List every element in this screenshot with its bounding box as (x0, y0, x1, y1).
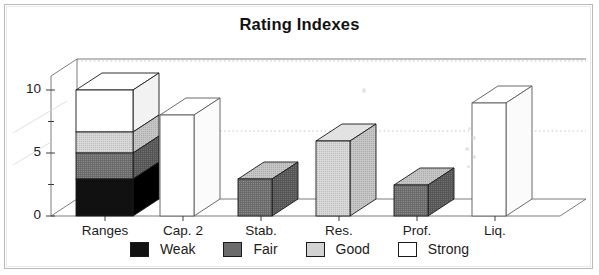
bar-segment-strong-front (76, 90, 133, 132)
legend-item-good[interactable]: Good (306, 241, 370, 257)
scan-speckle (362, 88, 366, 93)
x-axis-label-ranges: Ranges (60, 223, 150, 238)
bar-front (238, 179, 272, 216)
scan-speckle (465, 147, 469, 151)
bar-front (472, 103, 506, 216)
bar-side (506, 86, 532, 216)
bar-front (394, 185, 428, 216)
bar-segment-good-front (76, 132, 133, 153)
chart-canvas: Rating Indexes (5, 5, 594, 270)
bar-ranges[interactable] (76, 73, 159, 216)
bar-stab[interactable] (238, 162, 298, 216)
bar-liq[interactable] (472, 86, 532, 216)
x-axis-label-liq: Liq. (450, 223, 540, 238)
bar-front (160, 115, 194, 216)
legend-label-fair: Fair (253, 241, 277, 257)
chart-legend: Weak Fair Good Strong (5, 241, 594, 257)
legend-label-good: Good (336, 241, 370, 257)
legend-label-strong: Strong (428, 241, 469, 257)
legend-label-weak: Weak (160, 241, 196, 257)
x-axis-ticks (105, 216, 495, 221)
x-axis-label-res: Res. (294, 223, 384, 238)
chart-frame: Rating Indexes (4, 4, 593, 269)
legend-swatch-strong (398, 242, 417, 257)
bar-side (194, 98, 220, 216)
legend-swatch-weak (130, 242, 149, 257)
bar-prof[interactable] (394, 168, 454, 216)
x-axis-label-prof: Prof. (372, 223, 462, 238)
scan-speckle (468, 127, 471, 130)
scan-speckle (471, 136, 476, 140)
y-axis-label-10: 10 (7, 81, 41, 96)
scan-speckle (467, 165, 470, 168)
legend-item-weak[interactable]: Weak (130, 241, 196, 257)
legend-swatch-fair (223, 242, 242, 257)
y-axis-label-5: 5 (7, 144, 41, 159)
legend-swatch-good (306, 242, 325, 257)
legend-item-fair[interactable]: Fair (223, 241, 277, 257)
bar-res[interactable] (316, 124, 376, 216)
x-axis-label-stab: Stab. (216, 223, 306, 238)
scan-speckle (473, 155, 476, 159)
x-axis-label-cap-2: Cap. 2 (138, 223, 228, 238)
bar-segment-fair-front (76, 153, 133, 179)
y-axis-label-0: 0 (7, 207, 41, 222)
bar-front (316, 141, 350, 216)
bar-segment-weak-front (76, 179, 133, 216)
bar-cap-2[interactable] (160, 98, 220, 216)
legend-item-strong[interactable]: Strong (398, 241, 469, 257)
